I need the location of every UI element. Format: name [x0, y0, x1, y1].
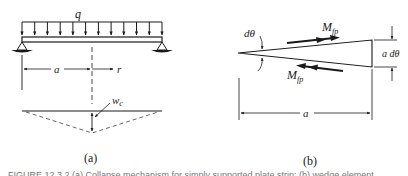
panel-b: dθ Mfp Mfp a dθ a (b): [238, 20, 400, 168]
angle-arc-top: [260, 36, 262, 49]
dimension-a-label: a: [54, 63, 60, 75]
angle-arc-bottom: [258, 58, 262, 71]
panel-a: q a r wc (a): [11, 7, 173, 165]
angle-label: dθ: [244, 27, 256, 39]
load-label: q: [75, 7, 81, 21]
panel-a-label: (a): [84, 151, 97, 165]
wedge-element: [238, 40, 372, 67]
pin-support-left-icon: [11, 42, 33, 53]
moment-top-label: Mfp: [321, 20, 338, 36]
distributed-load: [22, 22, 162, 35]
panel-b-label: (b): [303, 154, 317, 168]
moment-bottom-arrow-icon: [296, 63, 343, 71]
height-label: a dθ: [382, 48, 400, 59]
load-arrows-icon: [22, 22, 162, 35]
dimension-r-label: r: [117, 63, 122, 75]
beam: [22, 37, 162, 42]
figure-canvas: q a r wc (a): [0, 0, 408, 176]
length-label: a: [303, 107, 309, 119]
deflection-label: wc: [112, 94, 123, 108]
pin-support-right-icon: [151, 42, 173, 53]
moment-top-arrow-icon: [287, 35, 340, 43]
figure-caption-clipped: FIGURE 12.3.2 (a) Collapse mechanism for…: [8, 171, 408, 176]
deflection-leader: [95, 103, 110, 117]
moment-bottom-label: Mfp: [286, 68, 303, 84]
